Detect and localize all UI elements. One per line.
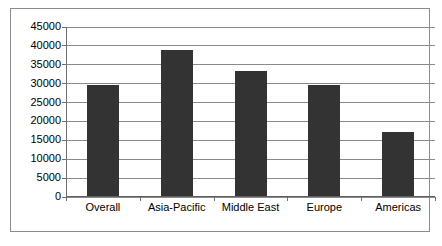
- bar: [161, 50, 193, 196]
- bar: [235, 71, 267, 196]
- y-axis-tick-label: 40000: [30, 40, 61, 51]
- bar: [87, 85, 119, 196]
- x-axis-tick-label: Asia-Pacific: [140, 201, 214, 214]
- bars-group: [66, 27, 435, 197]
- plot-area: [66, 27, 435, 197]
- y-axis-tick-label: 20000: [30, 115, 61, 126]
- y-axis-tick-label: 30000: [30, 78, 61, 89]
- y-axis-tick-label: 35000: [30, 59, 61, 70]
- bar: [308, 85, 340, 196]
- y-axis-tick-label: 0: [55, 191, 61, 202]
- y-axis-tick-label: 25000: [30, 97, 61, 108]
- y-axis-tick-label: 5000: [37, 172, 61, 183]
- x-axis-tick-label: Overall: [66, 201, 140, 214]
- y-axis-tick-label: 10000: [30, 153, 61, 164]
- x-axis-labels: OverallAsia-PacificMiddle EastEuropeAmer…: [66, 201, 435, 221]
- x-axis-tick: [435, 197, 436, 201]
- chart-frame: 0500010000150002000025000300003500040000…: [10, 8, 430, 232]
- bar: [382, 132, 414, 196]
- y-axis-tick-label: 45000: [30, 21, 61, 32]
- x-axis-tick-label: Europe: [287, 201, 361, 214]
- x-axis-tick-label: Middle East: [214, 201, 288, 214]
- y-axis-tick-label: 15000: [30, 134, 61, 145]
- x-axis-tick-label: Americas: [361, 201, 435, 214]
- y-axis-labels: 0500010000150002000025000300003500040000…: [19, 27, 61, 197]
- bar-chart: 0500010000150002000025000300003500040000…: [0, 0, 442, 246]
